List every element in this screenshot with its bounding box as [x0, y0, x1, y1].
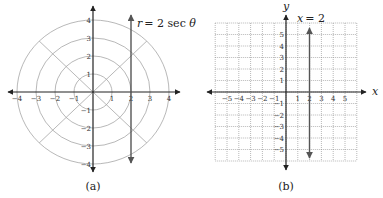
x-tick-label: −3	[245, 95, 255, 103]
y-tick-label: −2	[81, 125, 91, 133]
y-tick-label: 1	[87, 71, 91, 79]
y-tick-label: −1	[81, 107, 91, 115]
y-tick-label: 2	[87, 53, 91, 61]
x-tick-label: 3	[148, 95, 152, 103]
polar-ray	[39, 41, 93, 92]
y-tick-label: 3	[280, 54, 284, 62]
y-tick-label: −4	[274, 135, 285, 143]
polar-ray	[39, 92, 93, 143]
polar-plot-panel: −4−3−2−112344321−1−2−3−4 r= 2 sec θ (a)	[8, 6, 196, 193]
x-tick-label: 4	[167, 95, 172, 103]
figure: −4−3−2−112344321−1−2−3−4 r= 2 sec θ (a) …	[0, 0, 383, 198]
x-axis-label: x	[372, 85, 379, 98]
y-tick-label: 3	[87, 35, 91, 43]
x-tick-label: −4	[234, 95, 245, 103]
y-tick-label: −4	[81, 161, 92, 169]
y-tick-label: 4	[280, 43, 285, 51]
x-tick-label: −5	[222, 95, 232, 103]
polar-axes	[8, 6, 180, 172]
x-tick-label: 1	[296, 95, 300, 103]
y-tick-label: 4	[87, 17, 92, 25]
x-tick-label: 4	[331, 95, 336, 103]
cartesian-axes	[207, 15, 366, 170]
equation-label: x= 2	[297, 12, 325, 25]
x-tick-label: −4	[12, 95, 23, 103]
y-tick-label: −5	[274, 146, 284, 154]
x-tick-label: −2	[50, 95, 60, 103]
x-tick-label: 3	[319, 95, 323, 103]
polar-ray	[93, 41, 147, 92]
x-tick-label: −2	[257, 95, 267, 103]
y-tick-label: −1	[274, 100, 284, 108]
x-tick-label: −3	[31, 95, 41, 103]
x-tick-label: 5	[343, 95, 347, 103]
y-tick-label: −3	[81, 143, 91, 151]
polar-ray	[93, 92, 147, 143]
y-tick-label: −2	[274, 112, 284, 120]
y-tick-label: 5	[280, 31, 284, 39]
x-tick-label: −1	[69, 95, 79, 103]
y-tick-label: 2	[280, 66, 284, 74]
equation-label: r= 2 sec θ	[137, 17, 196, 30]
y-tick-label: −3	[274, 123, 284, 131]
y-tick-label: 1	[280, 77, 284, 85]
y-axis-label: y	[282, 0, 290, 13]
caption-b: (b)	[278, 180, 294, 193]
cartesian-plot-panel: −5−4−3−2−11234554321−1−2−3−4−5 x= 2 x y …	[207, 0, 379, 193]
caption-a: (a)	[85, 180, 100, 193]
x-tick-label: 1	[110, 95, 114, 103]
